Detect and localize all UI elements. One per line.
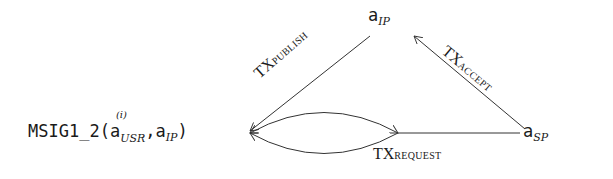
node-a-ip-base: a bbox=[368, 5, 378, 25]
msig-arg2-base: a bbox=[155, 121, 165, 141]
edge-request-name: REQUEST bbox=[394, 150, 441, 161]
edge-publish-line bbox=[250, 36, 370, 131]
msig-arg2-subscript: IP bbox=[166, 131, 178, 144]
edge-request-prefix: TX bbox=[373, 145, 394, 162]
msig-arg1-base: a bbox=[110, 121, 120, 141]
msig-arg1-superscript: (i) bbox=[116, 109, 127, 120]
msig-arg1-subscript: USR bbox=[120, 132, 145, 145]
msig-separator: , bbox=[145, 121, 155, 141]
node-a-sp-subscript: SP bbox=[533, 131, 548, 144]
node-a-ip: aIP bbox=[368, 5, 390, 25]
msig-prefix: MSIG1_2( bbox=[28, 121, 110, 141]
edge-request-label: TXREQUEST bbox=[373, 145, 441, 163]
node-msig: MSIG1_2(a(i)USR,aIP) bbox=[28, 121, 188, 141]
node-a-sp-base: a bbox=[523, 121, 533, 141]
diagram-canvas bbox=[0, 0, 613, 179]
node-a-sp: aSP bbox=[523, 121, 548, 141]
msig-suffix: ) bbox=[177, 121, 187, 141]
msig-arg1: a(i)USR bbox=[110, 121, 145, 141]
lens-top-curve bbox=[250, 113, 398, 134]
node-a-ip-subscript: IP bbox=[378, 15, 390, 28]
